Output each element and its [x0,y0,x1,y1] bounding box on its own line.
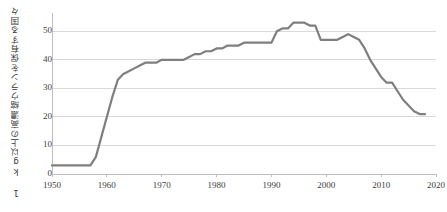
axis-lines [52,13,436,174]
plot-area [0,0,447,212]
gridlines [52,31,436,174]
chart-container: 1 kg以上の高濃縮ウランを保有する国々 01020304050 1950196… [0,0,447,212]
data-series [52,23,425,166]
series-line [52,23,425,166]
